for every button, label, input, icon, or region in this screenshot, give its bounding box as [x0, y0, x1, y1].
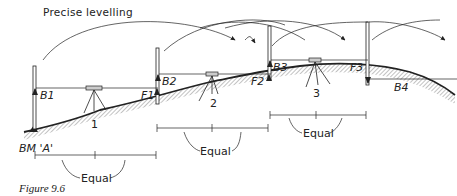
station-2-label: 2 [210, 97, 217, 110]
station-3-label: 3 [313, 87, 320, 100]
equal-label-2: Equal [200, 145, 231, 158]
equal-label-3: Equal [303, 127, 334, 140]
reading-F1: F1 [141, 89, 154, 102]
diagram-title: Precise levelling [43, 6, 133, 18]
reading-B1: B1 [40, 89, 55, 102]
staff-3 [268, 26, 271, 80]
sequence-arrows [43, 20, 445, 60]
reading-F2: F2 [251, 75, 264, 88]
staff-4 [366, 22, 369, 85]
reading-B4: B4 [394, 81, 409, 94]
figure-caption: Figure 9.6 [18, 182, 66, 194]
reading-B2: B2 [162, 75, 177, 88]
reading-F3: F3 [350, 61, 363, 74]
benchmark-label: BM 'A' [19, 142, 53, 155]
staff-1 [33, 66, 36, 129]
reading-B3: B3 [273, 61, 288, 74]
station-1-label: 1 [91, 118, 98, 131]
precise-levelling-diagram: Precise levelling BM 'A' [0, 0, 457, 196]
equal-label-1: Equal [81, 172, 112, 185]
